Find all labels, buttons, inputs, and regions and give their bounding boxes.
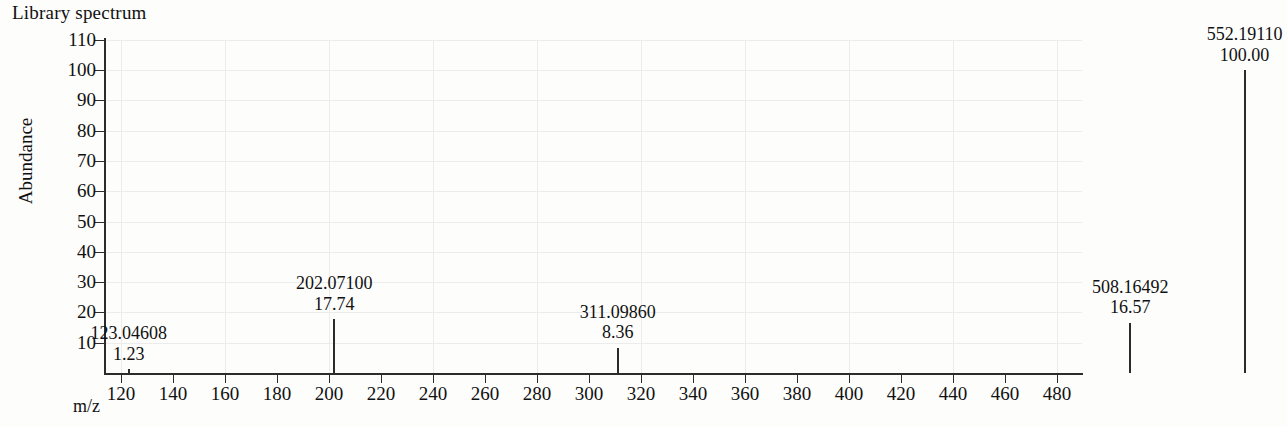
peak-bar xyxy=(1129,323,1131,373)
y-axis-tick-label: 40 xyxy=(36,242,96,261)
x-axis-tick-label: 340 xyxy=(663,384,723,403)
y-axis-tick xyxy=(95,191,105,192)
x-axis-tick-label: 240 xyxy=(403,384,463,403)
peak-mz-value: 552.19110 xyxy=(1145,24,1287,45)
peak-abundance-value: 16.57 xyxy=(1030,297,1230,318)
gridline-horizontal xyxy=(106,222,1082,223)
x-axis-tick-label: 320 xyxy=(611,384,671,403)
peak-label: 202.0710017.74 xyxy=(234,273,434,314)
x-axis-tick xyxy=(1005,375,1006,383)
x-axis-tick-label: 260 xyxy=(455,384,515,403)
x-axis-tick xyxy=(485,375,486,383)
x-axis-tick-label: 300 xyxy=(559,384,619,403)
peak-mz-value: 123.04608 xyxy=(29,323,229,344)
y-axis-tick-label: 100 xyxy=(36,60,96,79)
x-axis-tick-label: 220 xyxy=(351,384,411,403)
x-axis-tick-label: 460 xyxy=(975,384,1035,403)
x-axis-tick xyxy=(381,375,382,383)
gridline-horizontal xyxy=(106,131,1082,132)
x-axis-tick-label: 120 xyxy=(91,384,151,403)
y-axis-tick-label: 110 xyxy=(36,30,96,49)
y-axis-tick-label: 60 xyxy=(36,181,96,200)
x-axis-tick xyxy=(225,375,226,383)
gridline-horizontal xyxy=(106,100,1082,101)
x-axis-tick xyxy=(329,375,330,383)
y-axis-tick-label: 70 xyxy=(36,151,96,170)
gridline-horizontal xyxy=(106,161,1082,162)
y-axis-tick xyxy=(95,222,105,223)
x-axis-tick xyxy=(121,375,122,383)
x-axis-tick-label: 180 xyxy=(247,384,307,403)
peak-bar xyxy=(333,319,335,373)
x-axis-tick xyxy=(589,375,590,383)
y-axis-tick xyxy=(95,100,105,101)
gridline-vertical xyxy=(1057,40,1058,373)
y-axis-tick xyxy=(95,70,105,71)
y-axis-tick-label: 90 xyxy=(36,90,96,109)
x-axis-tick xyxy=(277,375,278,383)
x-axis-tick-label: 400 xyxy=(819,384,879,403)
y-axis-tick-label: 20 xyxy=(36,302,96,321)
y-axis-tick xyxy=(95,282,105,283)
x-axis-tick xyxy=(849,375,850,383)
peak-label: 311.098608.36 xyxy=(518,302,718,343)
gridline-vertical xyxy=(329,40,330,373)
y-axis-tick xyxy=(95,131,105,132)
x-axis-tick-label: 280 xyxy=(507,384,567,403)
peak-bar xyxy=(1244,70,1246,373)
peak-mz-value: 202.07100 xyxy=(234,273,434,294)
peak-bar xyxy=(128,369,130,373)
x-axis-tick xyxy=(745,375,746,383)
gridline-horizontal xyxy=(106,252,1082,253)
x-axis-tick-label: 160 xyxy=(195,384,255,403)
x-axis-tick xyxy=(433,375,434,383)
gridline-horizontal xyxy=(106,40,1082,41)
gridline-vertical xyxy=(953,40,954,373)
peak-mz-value: 311.09860 xyxy=(518,302,718,323)
peak-label: 508.1649216.57 xyxy=(1030,277,1230,318)
y-axis-tick xyxy=(95,40,105,41)
x-axis-tick-label: 360 xyxy=(715,384,775,403)
x-axis-tick-label: 200 xyxy=(299,384,359,403)
peak-mz-value: 508.16492 xyxy=(1030,277,1230,298)
peak-label: 123.046081.23 xyxy=(29,323,229,364)
y-axis-title: Abundance xyxy=(15,91,37,231)
y-axis-tick-label: 50 xyxy=(36,212,96,231)
y-axis-tick-label: 80 xyxy=(36,121,96,140)
peak-abundance-value: 1.23 xyxy=(29,344,229,365)
peak-label: 552.19110100.00 xyxy=(1145,24,1287,65)
x-axis-tick-label: 480 xyxy=(1027,384,1087,403)
peak-bar xyxy=(617,348,619,373)
gridline-vertical xyxy=(745,40,746,373)
figure-title: Library spectrum xyxy=(12,2,147,24)
x-axis-tick xyxy=(901,375,902,383)
x-axis-tick-label: 140 xyxy=(143,384,203,403)
y-axis-tick xyxy=(95,252,105,253)
y-axis-tick-label: 30 xyxy=(36,272,96,291)
gridline-vertical xyxy=(433,40,434,373)
x-axis-tick-label: 380 xyxy=(767,384,827,403)
x-axis-tick-label: 420 xyxy=(871,384,931,403)
y-axis-tick xyxy=(95,312,105,313)
x-axis-tick xyxy=(953,375,954,383)
peak-abundance-value: 17.74 xyxy=(234,294,434,315)
x-axis-tick xyxy=(797,375,798,383)
y-axis-tick xyxy=(95,161,105,162)
x-axis-line xyxy=(104,373,1083,375)
gridline-vertical xyxy=(849,40,850,373)
peak-abundance-value: 100.00 xyxy=(1145,45,1287,66)
x-axis-tick xyxy=(1057,375,1058,383)
x-axis-tick xyxy=(173,375,174,383)
x-axis-tick xyxy=(641,375,642,383)
x-axis-tick-label: 440 xyxy=(923,384,983,403)
gridline-horizontal xyxy=(106,191,1082,192)
peak-abundance-value: 8.36 xyxy=(518,322,718,343)
x-axis-tick xyxy=(693,375,694,383)
x-axis-tick xyxy=(537,375,538,383)
gridline-horizontal xyxy=(106,70,1082,71)
